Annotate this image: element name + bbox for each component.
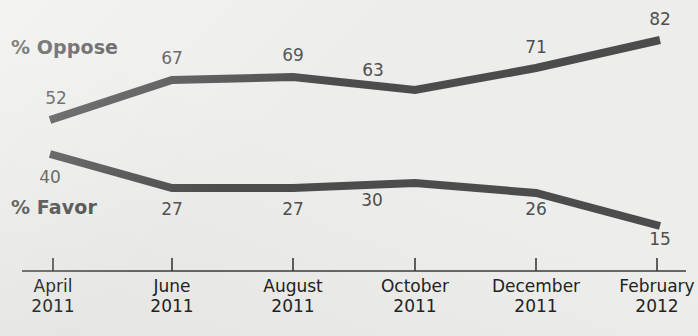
x-tick-year-2: 2011 [263, 296, 323, 316]
x-tick-label-3: October 2011 [381, 276, 449, 316]
value-label-oppose-1: 67 [161, 48, 183, 68]
series-line-oppose [50, 40, 660, 120]
x-tick-month-0: April [34, 276, 73, 296]
x-tick-month-2: August [263, 276, 323, 296]
value-label-oppose-5: 82 [649, 9, 671, 29]
x-tick-year-1: 2011 [150, 296, 193, 316]
x-tick-label-4: December 2011 [492, 276, 580, 316]
line-chart: % Oppose % Favor 52 67 69 63 71 82 40 27… [0, 0, 698, 336]
x-tick-label-0: April 2011 [31, 276, 74, 316]
value-label-favor-3: 30 [361, 190, 383, 210]
x-tick-month-5: February [619, 276, 694, 296]
series-line-favor [50, 154, 660, 226]
x-tick-label-5: February 2012 [619, 276, 694, 316]
value-label-oppose-2: 69 [282, 45, 304, 65]
x-tick-month-4: December [492, 276, 580, 296]
value-label-oppose-0: 52 [45, 88, 67, 108]
x-tick-month-3: October [381, 276, 449, 296]
value-label-favor-2: 27 [282, 199, 304, 219]
x-tick-year-3: 2011 [381, 296, 449, 316]
series-label-favor: % Favor [11, 196, 97, 218]
x-tick-year-0: 2011 [31, 296, 74, 316]
x-tick-label-1: June 2011 [150, 276, 193, 316]
value-label-oppose-4: 71 [525, 37, 547, 57]
x-tick-year-4: 2011 [492, 296, 580, 316]
series-label-oppose: % Oppose [11, 36, 118, 58]
value-label-oppose-3: 63 [362, 60, 384, 80]
value-label-favor-4: 26 [525, 199, 547, 219]
value-label-favor-5: 15 [649, 229, 671, 249]
value-label-favor-1: 27 [161, 199, 183, 219]
x-tick-label-2: August 2011 [263, 276, 323, 316]
value-label-favor-0: 40 [39, 167, 61, 187]
x-tick-month-1: June [153, 276, 190, 296]
x-tick-year-5: 2012 [619, 296, 694, 316]
